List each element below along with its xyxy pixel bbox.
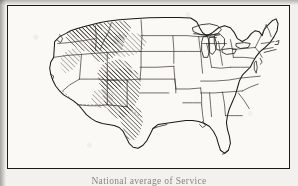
figure-caption: National average of Service — [0, 176, 298, 186]
map-frame — [7, 5, 290, 169]
map-background — [8, 6, 289, 168]
scan-gutter-shadow — [0, 0, 6, 186]
us-map-drawing — [8, 6, 289, 168]
figure-caption-text: National average of Service — [0, 176, 298, 186]
figure-root: National average of Service — [0, 0, 298, 186]
